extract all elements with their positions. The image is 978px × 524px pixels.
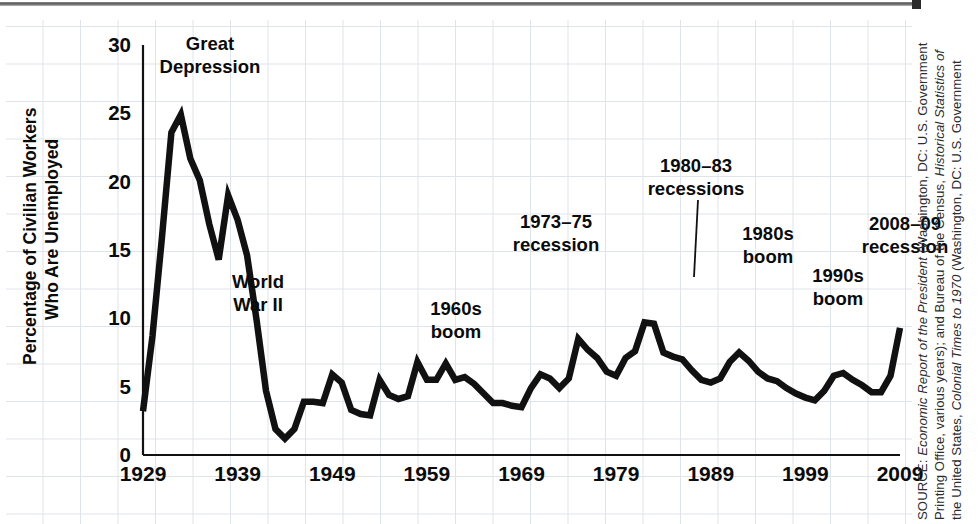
annotation-1973-75-recession-line2: recession: [513, 234, 599, 255]
source-line1-suffix: (Washington, DC: U.S. Government: [915, 43, 930, 257]
annotation-1973-75-recession-line1: 1973–75: [520, 211, 592, 232]
source-note-line-1: SOURCE: Economic Report of the President…: [915, 43, 930, 520]
y-tick-label-20: 20: [108, 170, 131, 193]
source-line1-prefix: SOURCE:: [915, 456, 930, 520]
annotation-1960s-boom-line1: 1960s: [430, 298, 481, 319]
annotation-1960s-boom: 1960sboom: [430, 298, 481, 342]
unemployment-line-chart: 051015202530 192919391949195919691979198…: [0, 0, 978, 524]
annotation-1980s-boom: 1980sboom: [742, 223, 793, 267]
x-tick-label-1969: 1969: [498, 462, 545, 485]
y-axis-tick-labels: 051015202530: [108, 33, 131, 466]
annotation-1960s-boom-line2: boom: [431, 321, 481, 342]
source-line3-prefix: the United States,: [949, 411, 964, 520]
x-axis-tick-labels: 192919391949195919691979198919992009: [120, 462, 924, 485]
annotation-world-war-ii-line2: War II: [233, 294, 283, 315]
annotation-1990s-boom-line1: 1990s: [812, 265, 863, 286]
annotation-great-depression-line2: Depression: [160, 56, 261, 77]
y-axis-title: Percentage of Civilian Workers Who Are U…: [20, 107, 62, 365]
source-note-line-3: the United States, Colonial Times to 197…: [949, 60, 964, 520]
annotation-1990s-boom-line2: boom: [813, 288, 863, 309]
annotation-world-war-ii: WorldWar II: [232, 271, 284, 315]
x-tick-label-1979: 1979: [593, 462, 640, 485]
y-tick-label-10: 10: [108, 306, 131, 329]
x-tick-label-1939: 1939: [214, 462, 261, 485]
annotation-1990s-boom: 1990sboom: [812, 265, 863, 309]
annotation-1980s-boom-line1: 1980s: [742, 223, 793, 244]
annotation-1980-83-recessions-line2: recessions: [648, 178, 745, 199]
annotation-1980-83-recessions: 1980–83recessions: [648, 155, 745, 277]
x-tick-label-1999: 1999: [782, 462, 829, 485]
source-line2-italic: Historical Statistics of: [932, 50, 947, 177]
source-line1-italic: Economic Report of the President: [915, 257, 930, 456]
y-tick-label-15: 15: [108, 238, 131, 261]
source-note: SOURCE: Economic Report of the President…: [916, 0, 978, 524]
source-line2-prefix: Printing Office, various years); and Bur…: [932, 176, 947, 520]
y-tick-label-25: 25: [108, 101, 131, 124]
y-tick-label-5: 5: [120, 375, 131, 398]
x-tick-label-1959: 1959: [404, 462, 451, 485]
y-tick-label-30: 30: [108, 33, 131, 56]
chart-annotations: GreatDepressionWorldWar II1960sboom1973–…: [160, 33, 949, 342]
source-line3-italic: Colonial Times to 1970: [949, 275, 964, 411]
annotation-world-war-ii-line1: World: [232, 271, 284, 292]
annotation-1973-75-recession: 1973–75recession: [513, 211, 599, 255]
source-note-line-2: Printing Office, various years); and Bur…: [932, 50, 947, 520]
y-axis-title-line1: Percentage of Civilian Workers: [20, 107, 40, 365]
chart-svg: 051015202530 192919391949195919691979198…: [0, 0, 978, 524]
x-tick-label-1989: 1989: [687, 462, 734, 485]
source-line3-suffix: (Washington, DC: U.S. Government: [949, 60, 964, 274]
annotation-great-depression-line1: Great: [186, 33, 234, 54]
x-tick-label-1929: 1929: [120, 462, 167, 485]
x-tick-label-1949: 1949: [309, 462, 356, 485]
annotation-great-depression: GreatDepression: [160, 33, 261, 77]
annotation-1980-83-recessions-line1: 1980–83: [660, 155, 732, 176]
annotation-1980-83-recessions-leader-line: [694, 200, 698, 277]
annotation-1980s-boom-line2: boom: [743, 246, 793, 267]
y-axis-title-line2: Who Are Unemployed: [42, 139, 62, 320]
